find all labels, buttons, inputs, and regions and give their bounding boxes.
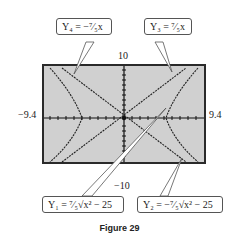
callout-y2: Y₂ = −⁷⁄₅√x² − 25 bbox=[137, 196, 223, 213]
callout-y1: Y₁ = ⁷⁄₅√x² − 25 bbox=[42, 196, 124, 213]
figure-caption: Figure 29 bbox=[0, 223, 239, 233]
